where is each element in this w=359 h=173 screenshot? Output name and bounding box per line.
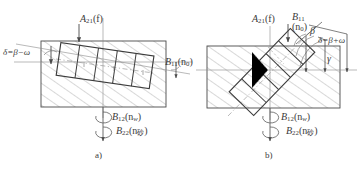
caption-panel-a: a): [95, 150, 102, 160]
label-b-b12-arg: (n: [294, 111, 302, 122]
label-a-b12-arg: (n: [125, 111, 133, 122]
label-a-b11-argend: ): [189, 56, 192, 67]
caption-panel-b: b): [265, 150, 273, 160]
label-b-b11-arg-close: ): [304, 21, 307, 32]
label-b-b12-argend: ): [307, 111, 310, 122]
label-a-b11: B11(n0): [165, 57, 193, 68]
label-b-feed: A21(f): [252, 14, 275, 25]
rotation-axis-a: [96, 107, 112, 141]
rotation-axis-b: [263, 108, 279, 141]
label-a-b22-sub: 22: [122, 129, 129, 136]
label-b-b12-sub: 12: [287, 115, 294, 122]
label-b-b11-arg: (n0): [292, 22, 307, 33]
label-b-b22: B22(n砂): [286, 126, 318, 137]
label-b-feed-sub: 21: [258, 17, 265, 24]
label-a-b22-argend: ): [144, 125, 147, 136]
label-a-b11-arg: (n: [178, 56, 186, 67]
label-b-b22-arg: (n: [299, 125, 307, 136]
label-b-b12: B12(nw): [281, 112, 310, 123]
label-b-gamma: γ: [327, 54, 331, 64]
label-b-delta: δ=β+ω: [318, 36, 345, 45]
label-b-b22-argend: ): [314, 125, 317, 136]
label-a-b12-argend: ): [138, 111, 141, 122]
label-a-b12-sub: 12: [118, 115, 125, 122]
label-b-b22-sub: 22: [292, 129, 299, 136]
label-b-feed-arg: (f): [265, 13, 275, 24]
label-a-b22: B22(n砂): [116, 126, 148, 137]
label-a-delta: δ=β−ω: [3, 48, 30, 57]
label-a-b12: B12(nw): [112, 112, 141, 123]
label-a-feed: A21(f): [80, 14, 103, 25]
label-a-b22-arg: (n: [129, 125, 137, 136]
label-a-feed-arg: (f): [93, 13, 103, 24]
workpiece-b: [207, 46, 340, 108]
label-b-beta: β: [310, 26, 315, 36]
label-a-feed-sub: 21: [86, 17, 93, 24]
panel-a-drawing: [14, 18, 192, 141]
